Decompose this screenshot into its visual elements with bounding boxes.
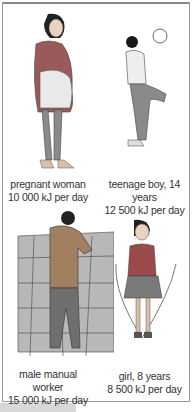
teenage-boy-illustration [120,28,180,168]
energy-value: 15 000 kJ per day [0,394,96,407]
caption-male-worker: male manual worker 15 000 kJ per day [0,368,96,407]
energy-value: 8 500 kJ per day [96,383,193,396]
pregnant-woman-illustration [20,10,80,175]
figure-label: girl, 8 years [96,370,193,383]
figure-label: pregnant woman [0,178,96,191]
energy-value: 10 000 kJ per day [0,191,96,204]
figure-label-cont: worker [0,381,96,394]
figure-label: teenage boy, 14 years [96,178,193,204]
girl-illustration [112,218,182,348]
caption-girl: girl, 8 years 8 500 kJ per day [96,370,193,396]
male-worker-illustration [14,208,114,358]
caption-pregnant-woman: pregnant woman 10 000 kJ per day [0,178,96,204]
figure-label: male manual [0,368,96,381]
